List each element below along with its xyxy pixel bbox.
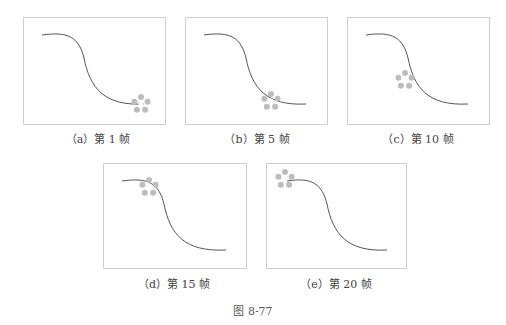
panel-c-frame (347, 17, 490, 125)
panel-b-caption: （b）第 5 帧 (207, 130, 307, 146)
flower-icon (139, 177, 158, 196)
motion-path-curve (204, 34, 306, 104)
motion-path-curve (366, 34, 468, 104)
figure-label: 图 8-77 (203, 302, 303, 318)
panel-d-caption: （d）第 15 帧 (124, 275, 224, 291)
panel-e-canvas (267, 164, 408, 270)
motion-path-curve (42, 34, 144, 104)
panel-c-caption: （c）第 10 帧 (368, 130, 468, 146)
panel-c-canvas (348, 18, 491, 126)
panel-b-canvas (186, 18, 329, 126)
motion-path-curve (287, 180, 387, 250)
panel-b-frame (185, 17, 328, 125)
motion-path-curve (122, 180, 226, 250)
panel-d-canvas (104, 164, 248, 270)
flower-icon (131, 94, 150, 113)
panel-a-canvas (24, 18, 167, 126)
panel-a-frame (23, 17, 166, 125)
panel-a-caption: （a）第 1 帧 (48, 130, 148, 146)
panel-e-frame (266, 163, 407, 269)
panel-d-frame (103, 163, 247, 269)
flower-icon (275, 169, 294, 188)
panel-e-caption: （e）第 20 帧 (286, 275, 386, 291)
